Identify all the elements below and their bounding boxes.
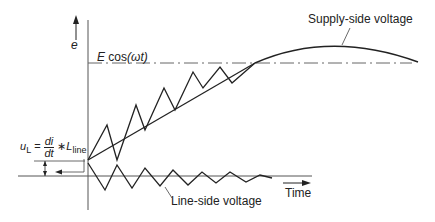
- ul-sub: L: [26, 145, 31, 155]
- ul-L-sub: line: [72, 145, 86, 155]
- line-side-label: Line-side voltage: [171, 194, 262, 208]
- y-axis-label: e: [71, 38, 78, 52]
- supply-leader-line: [342, 28, 350, 45]
- supply-voltage-curve: [255, 46, 418, 63]
- arrow-up-icon: [73, 15, 79, 40]
- ul-times: ∗: [57, 140, 66, 152]
- ecos-label: E cos(ωt): [97, 50, 148, 64]
- time-label: Time: [285, 186, 311, 200]
- ul-den: dt: [44, 148, 55, 159]
- ul-fraction: didt: [44, 136, 55, 159]
- ul-eq: =: [34, 140, 40, 152]
- supply-side-label: Supply-side voltage: [308, 12, 413, 26]
- ecos-arg: (ωt): [127, 50, 148, 64]
- ul-formula: uL = didt ∗Lline: [20, 136, 86, 159]
- voltage-diagram: [0, 0, 435, 222]
- ecos-prefix: E: [97, 50, 105, 64]
- ul-bracket: [34, 159, 85, 176]
- ecos-func: cos: [108, 50, 127, 64]
